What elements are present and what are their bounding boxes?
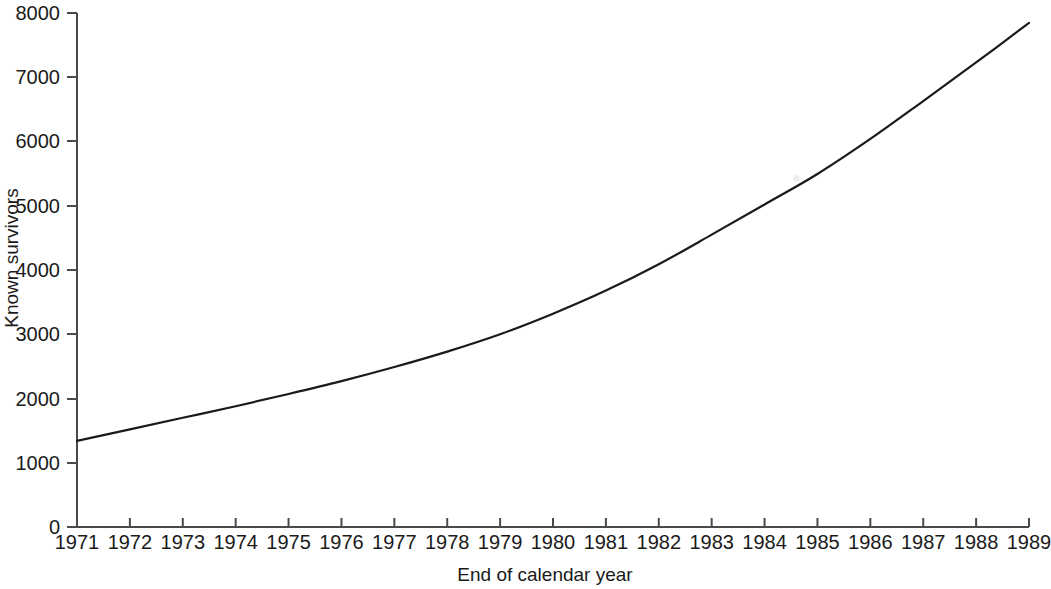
x-tick-label-1987: 1987 [901, 531, 946, 553]
y-tick-label-4000: 4000 [16, 259, 61, 281]
y-tick-label-6000: 6000 [16, 130, 61, 152]
x-tick-label-1972: 1972 [108, 531, 153, 553]
x-tick-label-1971: 1971 [55, 531, 100, 553]
x-tick-label-1989: 1989 [1007, 531, 1051, 553]
y-tick-label-7000: 7000 [16, 66, 61, 88]
y-axis-tick-labels: 0 1000 2000 3000 4000 5000 6000 7000 800… [16, 2, 61, 538]
y-tick-label-3000: 3000 [16, 323, 61, 345]
x-tick-label-1984: 1984 [742, 531, 787, 553]
x-tick-label-1988: 1988 [954, 531, 999, 553]
chart-container: 0 1000 2000 3000 4000 5000 6000 7000 800… [0, 0, 1051, 589]
x-tick-label-1981: 1981 [584, 531, 629, 553]
y-tick-label-2000: 2000 [16, 388, 61, 410]
x-tick-label-1978: 1978 [425, 531, 470, 553]
x-tick-label-1985: 1985 [795, 531, 840, 553]
y-tick-label-1000: 1000 [16, 452, 61, 474]
x-tick-label-1976: 1976 [319, 531, 364, 553]
x-tick-label-1983: 1983 [689, 531, 734, 553]
x-tick-label-1979: 1979 [478, 531, 523, 553]
x-axis-ticks [77, 518, 1029, 527]
x-tick-label-1982: 1982 [637, 531, 682, 553]
line-gap-marker [793, 175, 799, 181]
x-axis-title: End of calendar year [457, 564, 633, 585]
y-tick-label-8000: 8000 [16, 2, 61, 24]
y-axis-title: Known survivors [1, 188, 22, 327]
x-tick-label-1977: 1977 [372, 531, 417, 553]
x-tick-label-1975: 1975 [266, 531, 311, 553]
line-chart: 0 1000 2000 3000 4000 5000 6000 7000 800… [0, 0, 1051, 589]
x-tick-label-1980: 1980 [531, 531, 576, 553]
y-axis-ticks [67, 13, 77, 527]
x-tick-label-1974: 1974 [213, 531, 258, 553]
y-tick-label-5000: 5000 [16, 195, 61, 217]
x-axis-tick-labels: 1971197219731974197519761977197819791980… [55, 531, 1051, 553]
x-tick-label-1986: 1986 [848, 531, 893, 553]
data-series-line [77, 23, 1029, 441]
x-tick-label-1973: 1973 [161, 531, 206, 553]
